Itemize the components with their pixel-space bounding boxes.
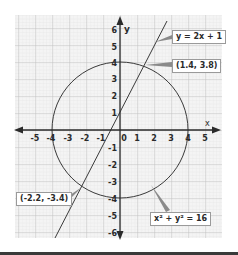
y-tick: 2	[111, 92, 117, 101]
y-axis-label: y	[124, 24, 130, 34]
x-tick: -2	[81, 134, 90, 143]
y-tick: 4	[111, 59, 117, 68]
x-tick: -1	[97, 134, 106, 143]
y-tick: -3	[108, 178, 117, 187]
x-tick: 5	[202, 134, 208, 143]
y-tick: -5	[108, 212, 117, 221]
intersection-label-1: (1.4, 3.8)	[172, 59, 221, 73]
y-tick: -2	[108, 161, 117, 170]
y-tick: 3	[111, 75, 117, 84]
y-tick: -6	[108, 229, 117, 238]
x-tick: -4	[47, 134, 56, 143]
y-tick: -1	[108, 144, 117, 153]
y-tick: 5	[111, 43, 117, 52]
y-tick: 6	[111, 26, 117, 35]
x-tick: 0	[121, 134, 127, 143]
x-tick: 3	[168, 134, 174, 143]
x-tick: -3	[64, 134, 73, 143]
x-tick: 4	[185, 134, 191, 143]
y-tick: -4	[108, 195, 117, 204]
x-tick: 2	[151, 134, 157, 143]
line-equation-label: y = 2x + 1	[172, 30, 226, 44]
graph-figure: x y -5 -4 -3 -2 -1 0 1 2 3 4 5 1 2 3 4 5…	[0, 0, 238, 255]
x-tick: -5	[31, 134, 40, 143]
y-tick: 1	[111, 109, 117, 118]
x-tick: 1	[134, 134, 140, 143]
x-axis-label: x	[205, 119, 210, 128]
intersection-label-2: (-2.2, -3.4)	[16, 192, 72, 206]
circle-equation-label: x² + y² = 16	[150, 212, 211, 226]
